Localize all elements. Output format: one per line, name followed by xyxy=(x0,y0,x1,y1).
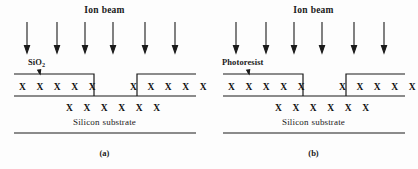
implant-x-marks-left-a: X X X X X xyxy=(19,82,100,92)
substrate-word-substrate-b: substrate xyxy=(312,117,345,127)
ion-beam-label-a: Ionbeam xyxy=(0,5,209,15)
panel-a: Ionbeam SiO2 xyxy=(0,0,209,169)
substrate-word-silicon-b: Silicon xyxy=(282,117,309,127)
panel-b: Ionbeam Photoresist xyxy=(209,0,418,169)
photoresist-layer-label-b: Photoresist xyxy=(222,57,264,67)
oxide-leader-line-a xyxy=(38,70,40,74)
oxide-label-subscript-a: 2 xyxy=(42,61,45,68)
implant-x-marks-left-b: X X X X X xyxy=(228,82,309,92)
ion-beam-arrows-b xyxy=(209,22,418,56)
ion-beam-word-ion-b: Ion xyxy=(293,5,307,15)
substrate-word-silicon-a: Silicon xyxy=(73,117,100,127)
implant-x-marks-right-a: X X X X X xyxy=(130,82,211,92)
ion-beam-word-ion-a: Ion xyxy=(84,5,98,15)
panel-caption-b: (b) xyxy=(209,148,418,158)
oxide-layer-label-a: SiO2 xyxy=(28,57,45,67)
ion-beam-arrows-a xyxy=(0,22,209,56)
silicon-substrate-label-b: Siliconsubstrate xyxy=(209,117,418,127)
photoresist-label-text-b: Photoresist xyxy=(222,57,264,67)
ion-beam-word-beam-b: beam xyxy=(311,5,334,15)
implant-x-marks-middle-a: X X X X X X xyxy=(66,103,164,113)
arrow-group-b xyxy=(209,22,418,56)
oxide-label-text-a: SiO xyxy=(28,57,42,67)
ion-beam-label-b: Ionbeam xyxy=(209,5,418,15)
substrate-word-substrate-a: substrate xyxy=(103,117,136,127)
arrow-group-a xyxy=(0,22,209,56)
implant-x-marks-right-b: X X X X X xyxy=(339,82,418,92)
photoresist-leader-line-b xyxy=(247,70,249,74)
implant-x-marks-middle-b: X X X X X X xyxy=(275,103,373,113)
ion-implantation-figure: Ionbeam SiO2 xyxy=(0,0,418,169)
photoresist-leader-arrowhead-b xyxy=(246,69,251,76)
panel-caption-a: (a) xyxy=(0,148,209,158)
silicon-substrate-label-a: Siliconsubstrate xyxy=(0,117,209,127)
ion-beam-word-beam-a: beam xyxy=(102,5,125,15)
oxide-leader-arrowhead-a xyxy=(37,69,42,76)
